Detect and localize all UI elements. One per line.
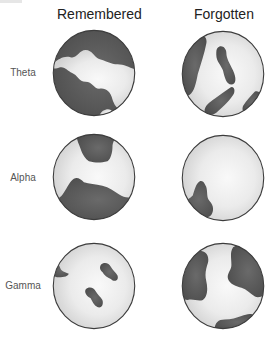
column-title-forgotten: Forgotten xyxy=(194,6,254,22)
row-label-alpha: Alpha xyxy=(0,172,46,183)
globe-alpha-remembered xyxy=(52,133,136,221)
globe-theta-remembered xyxy=(52,29,136,117)
column-title-remembered: Remembered xyxy=(57,6,142,22)
globe-gamma-forgotten xyxy=(181,242,265,330)
row-label-gamma: Gamma xyxy=(0,280,46,291)
row-label-theta: Theta xyxy=(0,67,46,78)
corner-artifact xyxy=(0,0,22,3)
globe-gamma-remembered xyxy=(52,242,136,330)
globe-alpha-forgotten xyxy=(181,134,265,222)
globe-theta-forgotten xyxy=(181,30,265,118)
